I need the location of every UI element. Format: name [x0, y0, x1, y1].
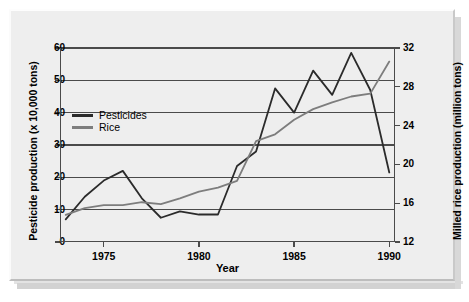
y-axis-right-tickmark — [395, 47, 400, 48]
x-axis-tickmark — [389, 242, 390, 247]
legend-swatch-rice — [72, 126, 93, 128]
legend-item-rice: Rice — [72, 122, 147, 133]
figure-shadow-bottom — [17, 283, 461, 289]
legend-swatch-pesticides — [72, 114, 93, 116]
chart-legend: Pesticides Rice — [72, 110, 147, 134]
legend-item-pesticides: Pesticides — [72, 110, 147, 121]
x-axis-tickmark — [198, 242, 199, 247]
y-axis-right-tickmark — [395, 86, 400, 87]
plot-area — [60, 48, 395, 242]
y-axis-right-ticklabel: 16 — [403, 198, 414, 208]
chart-figure: 0102030405060 121620242832 1975198019851… — [0, 0, 469, 302]
x-axis-tickmark — [103, 242, 104, 247]
y-axis-right-ticklabel: 24 — [403, 121, 414, 131]
y-axis-right-tickmark — [395, 164, 400, 165]
legend-label-pesticides: Pesticides — [99, 110, 147, 121]
legend-label-rice: Rice — [99, 122, 120, 133]
y-axis-right-ticklabel: 20 — [403, 159, 414, 169]
y-axis-right-tickmark — [395, 125, 400, 126]
y-axis-right-ticklabel: 28 — [403, 82, 414, 92]
x-axis-ticklabel: 1990 — [378, 250, 401, 262]
x-axis-ticklabel: 1975 — [92, 250, 115, 262]
y-axis-right-tickmark — [395, 241, 400, 242]
y-axis-right-tickmark — [395, 203, 400, 204]
y-axis-right-ticklabel: 12 — [403, 237, 414, 247]
y-axis-left-label: Pesticide production (x 10,000 tons) — [27, 46, 39, 256]
x-axis-tickmark — [293, 242, 294, 247]
x-axis-ticklabel: 1980 — [187, 250, 210, 262]
y-axis-right-label: Milled rice production (million tons) — [451, 46, 463, 256]
x-axis-label: Year — [60, 262, 395, 274]
y-axis-right-ticklabel: 32 — [403, 43, 414, 53]
x-axis-ticklabel: 1985 — [282, 250, 305, 262]
